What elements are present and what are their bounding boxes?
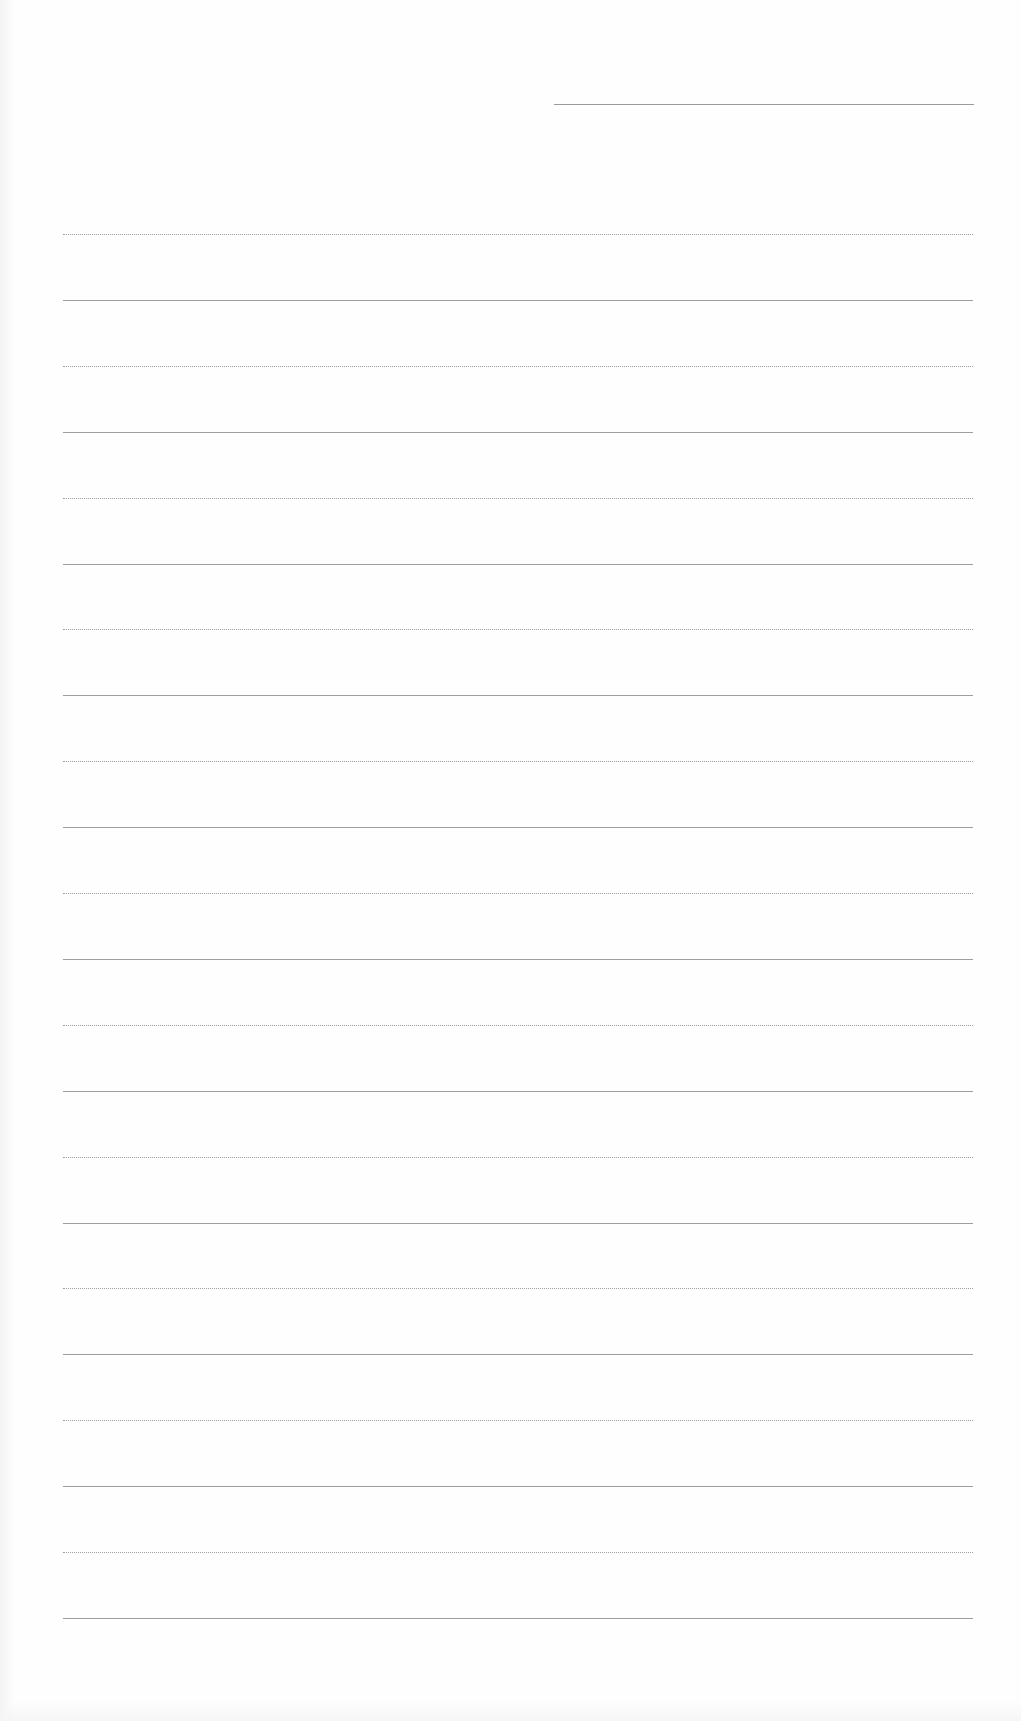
page-edge-shadow bbox=[0, 0, 14, 1721]
ruled-line bbox=[63, 1223, 973, 1224]
ruled-line bbox=[63, 1157, 973, 1158]
ruled-line bbox=[63, 1486, 973, 1487]
ruled-line bbox=[63, 234, 973, 235]
ruled-line bbox=[63, 1420, 973, 1421]
ruled-line bbox=[63, 827, 973, 828]
ruled-line bbox=[63, 366, 973, 367]
ruled-line bbox=[63, 695, 973, 696]
ruled-line bbox=[63, 629, 973, 630]
ruled-line bbox=[63, 1288, 973, 1289]
ruled-line bbox=[63, 300, 973, 301]
ruled-line bbox=[63, 564, 973, 565]
header-rule-line bbox=[554, 104, 974, 105]
ruled-line bbox=[63, 959, 973, 960]
ruled-line bbox=[63, 498, 973, 499]
ruled-line bbox=[63, 432, 973, 433]
ruled-line bbox=[63, 1618, 973, 1619]
ruled-page bbox=[0, 0, 1021, 1721]
ruled-line bbox=[63, 1025, 973, 1026]
ruled-line bbox=[63, 1552, 973, 1553]
ruled-line bbox=[63, 893, 973, 894]
ruled-line bbox=[63, 761, 973, 762]
bottom-bleed-through bbox=[0, 1700, 1021, 1721]
ruled-line bbox=[63, 1354, 973, 1355]
ruled-line bbox=[63, 1091, 973, 1092]
